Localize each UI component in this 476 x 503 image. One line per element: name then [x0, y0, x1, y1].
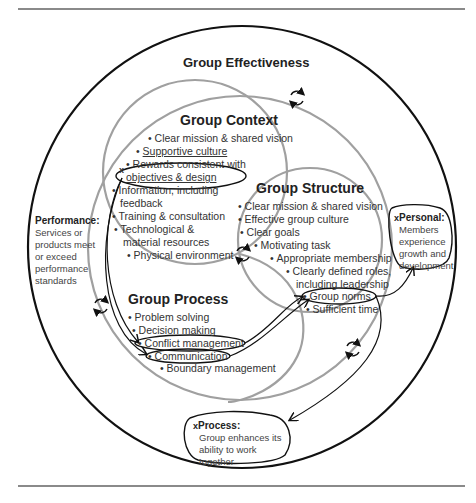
context-item: Technological & — [114, 223, 194, 236]
structure-item: Appropriate membership — [270, 252, 392, 265]
context-item: Physical environment — [127, 249, 233, 262]
personal-label: Personal: — [399, 212, 445, 223]
personal-line: experience — [394, 236, 454, 248]
group-process-heading: Group Process — [128, 291, 228, 307]
performance-line: Services or — [35, 227, 105, 239]
context-item: Information, including — [112, 184, 218, 197]
diagram-title: Group Effectiveness — [183, 55, 309, 70]
context-item-cont: feedback — [120, 197, 163, 210]
structure-item-text: including leadership — [296, 278, 389, 290]
x-marker-icon: x — [119, 164, 124, 177]
context-item-text: Supportive culture — [143, 145, 228, 157]
personal-outcome: xPersonal: Members experience growth and… — [394, 212, 454, 272]
process-label: Process: — [198, 420, 240, 431]
context-item-cont: material resources — [123, 236, 209, 249]
context-item: Training & consultation — [112, 210, 225, 223]
personal-label-row: xPersonal: — [394, 212, 454, 224]
conflict-to-norms-arrow — [245, 297, 302, 343]
performance-label: Performance: — [35, 215, 105, 227]
personal-line: development — [394, 260, 454, 272]
structure-item: Clear goals — [240, 226, 300, 239]
personal-line: growth and — [394, 248, 454, 260]
structure-item: Clear mission & shared vision — [238, 200, 383, 213]
process-label-row: xProcess: — [193, 420, 293, 432]
context-item: Rewards consistent with — [126, 158, 246, 171]
group-structure-heading: Group Structure — [256, 180, 364, 196]
process-item: Decision making — [132, 324, 216, 337]
process-line: Group enhances its — [193, 432, 293, 444]
context-item: Supportive culture — [136, 145, 227, 158]
context-item-text: objectives & design — [126, 171, 216, 183]
performance-line: performance — [35, 263, 105, 275]
structure-item: Motivating task — [254, 239, 331, 252]
personal-line: Members — [394, 224, 454, 236]
performance-outcome: Performance: Services or products meet o… — [35, 215, 105, 287]
process-outcome: xProcess: Group enhances its ability to … — [193, 420, 293, 468]
context-item-cont: objectives & design — [126, 171, 216, 184]
cycle-arrows-icon — [291, 91, 303, 105]
group-context-heading: Group Context — [180, 112, 278, 128]
structure-item: Sufficient time — [306, 303, 378, 316]
structure-item: Effective group culture — [238, 213, 349, 226]
performance-line: products meet — [35, 239, 105, 251]
process-line: ability to work together — [193, 444, 293, 468]
performance-line: standards — [35, 275, 105, 287]
process-item: Problem solving — [128, 311, 209, 324]
performance-line: or exceed — [35, 251, 105, 263]
process-item: Boundary management — [160, 362, 276, 375]
structure-item: Group norms — [303, 290, 371, 303]
process-item: Conflict management — [138, 337, 244, 350]
structure-item: Clearly defined roles, — [286, 265, 391, 278]
context-item: Clear mission & shared vision — [148, 132, 293, 145]
